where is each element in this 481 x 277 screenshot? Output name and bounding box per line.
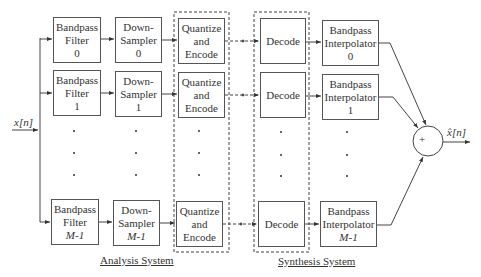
adder-plus-sign: + <box>419 133 425 145</box>
bandpass-filter-1: Bandpass Filter 1 <box>53 70 101 116</box>
bandpass-filter-m-1: Bandpass Filter M-1 <box>51 199 99 245</box>
quantize-encode-m-1: Quantize and Encode <box>176 201 223 247</box>
label: Decode <box>265 218 299 231</box>
index: M-1 <box>127 230 145 243</box>
label: Quantize <box>182 22 222 35</box>
bandpass-filter-0: Bandpass Filter 0 <box>53 17 101 63</box>
label: Interpolator <box>325 91 377 104</box>
analysis-system-caption: Analysis System <box>100 254 174 266</box>
index: 1 <box>348 104 354 117</box>
label: Down- <box>123 75 154 88</box>
down-sampler-m-1: Down- Sampler M-1 <box>113 200 160 246</box>
index: 0 <box>136 47 142 60</box>
label: Filter <box>65 34 89 47</box>
bandpass-interpolator-m-1: Bandpass Interpolator M-1 <box>320 201 377 247</box>
label: Bandpass <box>56 21 98 34</box>
label: Bandpass <box>56 74 98 87</box>
label: Down- <box>121 204 152 217</box>
bandpass-interpolator-0: Bandpass Interpolator 0 <box>322 20 379 66</box>
subband-coder-diagram: x[n] + x̂[n] Bandpass Filter 0 Down- Sam… <box>0 0 481 277</box>
adder-circle <box>413 126 443 156</box>
label: Encode <box>183 231 216 244</box>
label: Bandpass <box>329 24 371 37</box>
label: Interpolator <box>325 37 377 50</box>
index: M-1 <box>339 231 357 244</box>
label: Sampler <box>120 88 157 101</box>
index: 0 <box>348 50 354 63</box>
synthesis-system-caption: Synthesis System <box>278 255 355 267</box>
label: Encode <box>185 48 218 61</box>
decode-m-1: Decode <box>258 201 305 247</box>
label: Sampler <box>120 34 157 47</box>
decode-0: Decode <box>260 18 306 64</box>
label: Quantize <box>180 205 220 218</box>
label: Decode <box>266 89 300 102</box>
output-signal-label: x̂[n] <box>447 126 466 138</box>
down-sampler-0: Down- Sampler 0 <box>115 17 162 63</box>
label: and <box>194 35 210 48</box>
label: Decode <box>266 35 300 48</box>
label: Encode <box>185 102 218 115</box>
label: and <box>192 218 208 231</box>
down-sampler-1: Down- Sampler 1 <box>115 71 162 117</box>
index: 1 <box>136 101 142 114</box>
label: Filter <box>65 87 89 100</box>
label: and <box>194 89 210 102</box>
label: Filter <box>63 216 87 229</box>
decode-1: Decode <box>260 72 306 118</box>
label: Bandpass <box>329 78 371 91</box>
quantize-encode-0: Quantize and Encode <box>178 18 225 64</box>
index: 0 <box>74 47 80 60</box>
label: Down- <box>123 21 154 34</box>
label: Sampler <box>118 217 155 230</box>
index: M-1 <box>66 229 84 242</box>
index: 1 <box>74 100 80 113</box>
label: Bandpass <box>54 203 96 216</box>
label: Interpolator <box>323 218 375 231</box>
input-signal-label: x[n] <box>14 116 33 128</box>
bandpass-interpolator-1: Bandpass Interpolator 1 <box>322 74 379 120</box>
quantize-encode-1: Quantize and Encode <box>178 72 225 118</box>
label: Quantize <box>182 76 222 89</box>
label: Bandpass <box>327 205 369 218</box>
